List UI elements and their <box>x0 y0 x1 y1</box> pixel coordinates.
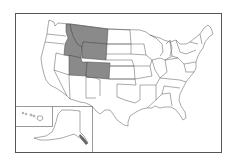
us-map <box>0 0 233 164</box>
state-colorado[interactable] <box>86 62 110 79</box>
state-wyoming[interactable] <box>82 42 107 60</box>
